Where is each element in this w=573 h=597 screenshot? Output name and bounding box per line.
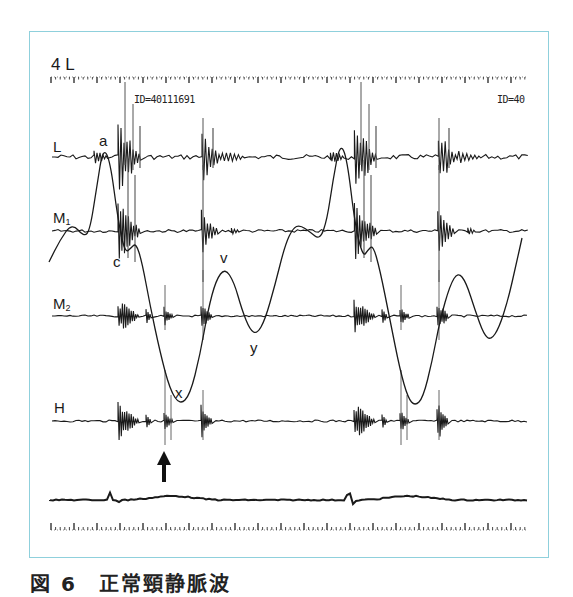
bottom-time-ruler: [51, 523, 528, 530]
channel-label-m2: M2: [53, 296, 71, 311]
lead-label: 4 L: [51, 56, 75, 73]
top-time-ruler: [51, 77, 528, 83]
second-heart-sound-arrow-icon: [157, 451, 171, 482]
channel-label-l: L: [53, 139, 61, 154]
phonocardiogram-traces: [52, 82, 528, 445]
channel-label-m1: M1: [53, 210, 71, 225]
wave-label-c: c: [113, 254, 121, 269]
wave-label-y: y: [250, 340, 258, 355]
recording-id-right: ID=40: [497, 94, 525, 105]
recording-id-left: ID=40111691: [134, 94, 195, 105]
wave-label-a: a: [99, 133, 107, 148]
wave-label-x: x: [175, 385, 183, 400]
wave-label-v: v: [220, 250, 228, 265]
figure-caption: 図 6 正常頸静脈波: [30, 568, 231, 597]
ecg-trace: [50, 493, 527, 505]
channel-label-h: H: [54, 400, 65, 415]
